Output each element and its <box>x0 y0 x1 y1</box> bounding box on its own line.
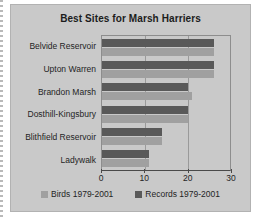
legend-label: Birds 1979-2001 <box>51 189 113 199</box>
bar-birds <box>102 137 162 145</box>
x-tick-label: 30 <box>226 173 235 183</box>
legend-item-birds: Birds 1979-2001 <box>41 189 113 199</box>
bar-records <box>102 39 214 47</box>
x-tick-label: 0 <box>99 173 104 183</box>
x-tick-label: 10 <box>140 173 149 183</box>
bar-records <box>102 83 188 91</box>
bar-birds <box>102 48 214 56</box>
bar-group <box>102 58 231 80</box>
bar-records <box>102 106 188 114</box>
chart-container: Best Sites for Marsh Harriers Belvide Re… <box>10 4 251 212</box>
bars-layer <box>102 36 231 170</box>
bar-group <box>102 148 231 170</box>
x-axis: 0102030 <box>101 173 233 185</box>
legend-label: Records 1979-2001 <box>145 189 220 199</box>
bar-group <box>102 36 231 58</box>
bar-group <box>102 103 231 125</box>
chart-title: Best Sites for Marsh Harriers <box>11 13 250 24</box>
bar-birds <box>102 159 149 167</box>
y-axis-label: Upton Warren <box>11 58 99 81</box>
page-edge-artifact <box>0 0 3 219</box>
y-axis-category-labels: Belvide Reservoir Upton Warren Brandon M… <box>11 35 99 171</box>
x-tick-label: 20 <box>183 173 192 183</box>
bar-birds <box>102 92 192 100</box>
legend-item-records: Records 1979-2001 <box>135 189 220 199</box>
y-axis-label: Belvide Reservoir <box>11 35 99 58</box>
bar-records <box>102 150 149 158</box>
y-axis-label: Dosthill-Kingsbury <box>11 103 99 126</box>
bar-group <box>102 125 231 147</box>
bar-group <box>102 81 231 103</box>
bar-records <box>102 128 162 136</box>
legend-swatch-icon <box>41 191 48 198</box>
y-axis-label: Ladywalk <box>11 148 99 171</box>
bar-records <box>102 61 214 69</box>
bar-birds <box>102 70 214 78</box>
chart-legend: Birds 1979-2001 Records 1979-2001 <box>11 189 250 199</box>
y-axis-label: Brandon Marsh <box>11 80 99 103</box>
y-axis-label: Blithfield Reservoir <box>11 126 99 149</box>
legend-swatch-icon <box>135 191 142 198</box>
bar-birds <box>102 115 188 123</box>
